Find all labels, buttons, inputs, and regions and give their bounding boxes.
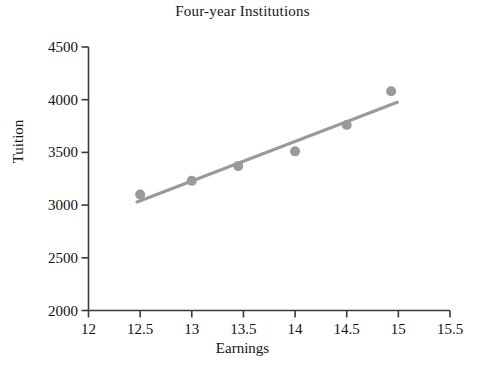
- x-tick-label: 15: [391, 321, 406, 338]
- x-tick-label: 14: [288, 321, 303, 338]
- x-tick-label: 12: [81, 321, 96, 338]
- x-tick-label: 12.5: [127, 321, 153, 338]
- data-point: [233, 161, 243, 171]
- data-point: [290, 146, 300, 156]
- y-tick-marks: [82, 47, 89, 311]
- y-tick-label: 4500: [8, 39, 78, 56]
- x-tick-marks: [89, 311, 451, 318]
- y-axis-label: Tuition: [10, 102, 27, 182]
- x-tick-label: 15.5: [437, 321, 463, 338]
- chart-figure: Four-year Institutions 45004000350030002…: [0, 0, 485, 372]
- x-tick-label: 13: [184, 321, 199, 338]
- y-tick-label: 2000: [8, 302, 78, 319]
- data-point: [187, 176, 197, 186]
- axis-lines: [88, 47, 450, 311]
- x-tick-label: 14.5: [334, 321, 360, 338]
- y-tick-label: 2500: [8, 249, 78, 266]
- y-tick-label: 3000: [8, 197, 78, 214]
- trend-line: [137, 102, 397, 202]
- data-point: [135, 190, 145, 200]
- data-point: [386, 86, 396, 96]
- data-markers: [135, 86, 396, 199]
- regression-line: [137, 102, 397, 202]
- data-point: [342, 120, 352, 130]
- x-axis-label: Earnings: [0, 340, 485, 357]
- x-tick-label: 13.5: [230, 321, 256, 338]
